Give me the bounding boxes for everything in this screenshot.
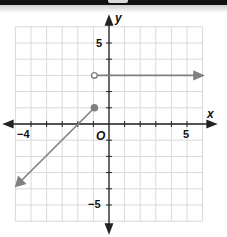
closed-point [91, 105, 97, 111]
x-axis-right-arrow-icon [207, 121, 216, 128]
open-point [92, 73, 98, 79]
x-axis-label: x [206, 107, 215, 121]
x-tick-label-5: 5 [183, 128, 189, 140]
coordinate-plane: y x O −4 5 5 −5 [0, 0, 227, 237]
y-axis-down-arrow-icon [106, 224, 113, 233]
y-axis-label: y [114, 11, 123, 25]
origin-label: O [96, 129, 106, 143]
y-axis-up-arrow-icon [106, 16, 113, 25]
y-tick-label-5: 5 [96, 37, 102, 49]
x-tick-label-neg4: −4 [17, 128, 30, 140]
x-axis-left-arrow-icon [4, 121, 13, 128]
y-tick-label-neg5: −5 [88, 198, 101, 210]
right-ray-arrow-icon [194, 72, 203, 80]
axes [4, 16, 216, 233]
left-ray [19, 108, 94, 183]
